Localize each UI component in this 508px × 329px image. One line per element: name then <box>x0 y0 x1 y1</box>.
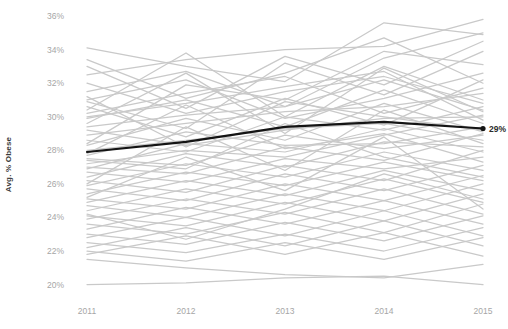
x-tick-label-2013: 2013 <box>276 306 295 316</box>
series-line <box>87 71 483 120</box>
y-tick-label-20pct: 20% <box>30 280 64 290</box>
y-axis-tick-labels: 36%34%32%30%28%26%24%22%20% <box>22 0 64 329</box>
y-tick-label-26pct: 26% <box>30 179 64 189</box>
y-tick-label-22pct: 22% <box>30 246 64 256</box>
y-tick-label-32pct: 32% <box>30 78 64 88</box>
plot-area <box>68 6 488 298</box>
series-line <box>87 259 483 277</box>
x-axis-tick-labels: 20112012201320142015 <box>0 300 508 320</box>
spaghetti-line-plot <box>68 6 488 298</box>
highlight-series-annotation: 29% <box>489 124 506 134</box>
x-tick-label-2014: 2014 <box>375 306 394 316</box>
y-tick-label-24pct: 24% <box>30 212 64 222</box>
series-line <box>87 33 483 107</box>
x-tick-label-2011: 2011 <box>78 306 96 316</box>
x-tick-label-2015: 2015 <box>474 306 493 316</box>
y-axis-title: Avg. % Obese <box>0 0 18 329</box>
y-axis-title-label: Avg. % Obese <box>5 137 14 192</box>
y-tick-label-28pct: 28% <box>30 145 64 155</box>
background-series-group <box>87 19 483 284</box>
chart-container: Avg. % Obese 36%34%32%30%28%26%24%22%20%… <box>0 0 508 329</box>
x-tick-label-2012: 2012 <box>177 306 196 316</box>
highlight-series-endpoint-marker <box>480 126 485 131</box>
y-tick-label-30pct: 30% <box>30 112 64 122</box>
y-tick-label-34pct: 34% <box>30 45 64 55</box>
series-line <box>87 276 483 284</box>
series-line <box>87 127 483 156</box>
y-tick-label-36pct: 36% <box>30 11 64 21</box>
